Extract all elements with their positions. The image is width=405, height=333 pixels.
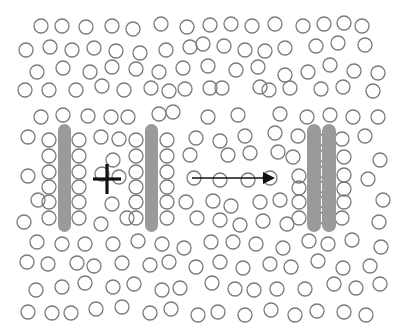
plate-left	[58, 124, 71, 232]
plate-right-a	[307, 124, 321, 232]
depletion-diagram	[0, 0, 405, 333]
plate-right-b	[322, 124, 336, 232]
plate-middle	[145, 124, 158, 232]
